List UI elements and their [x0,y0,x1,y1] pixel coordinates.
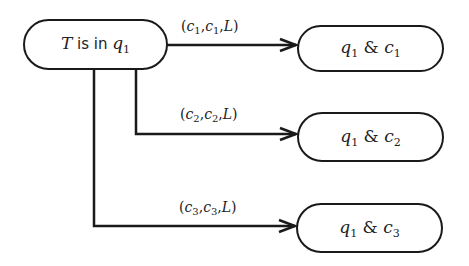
t1-amp: & [358,37,384,57]
edge-label-3: (c3,c3,L) [179,199,237,217]
source-var: T [61,33,72,53]
source-state-sub: 1 [123,43,130,56]
source-node: T is in q1 [23,19,168,70]
source-state: q [112,33,123,53]
source-text: is in [72,35,112,53]
edge-label-2: (c2,c2,L) [180,106,238,124]
t3-sym-sub: 3 [393,227,400,240]
t3-amp: & [357,217,383,237]
t3-state: q [339,217,350,237]
target-node-1: q1 & c1 [297,25,444,72]
t2-amp: & [358,126,384,146]
target-node-2: q1 & c2 [297,112,444,162]
t2-sym-sub: 2 [394,136,401,149]
target-node-3: q1 & c3 [296,203,443,253]
t1-sym: c [384,37,394,57]
t2-state: q [340,126,351,146]
t1-state: q [340,37,351,57]
t1-sym-sub: 1 [394,47,401,60]
t3-sym: c [383,217,393,237]
edge-label-1: (c1,c1,L) [181,18,239,36]
edge-source-to-t2 [136,69,296,134]
t2-sym: c [384,126,394,146]
